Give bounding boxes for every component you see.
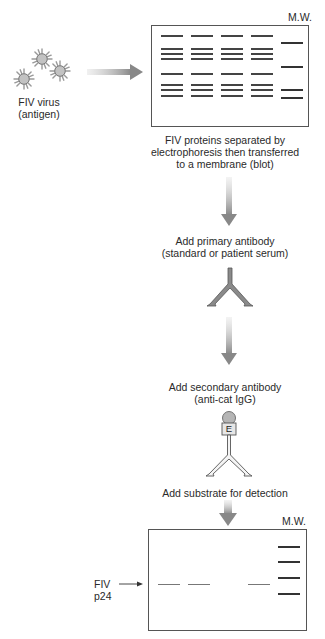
sample-band: [161, 89, 183, 91]
sample-band: [251, 48, 273, 50]
bottom-blot-membrane: [148, 529, 307, 631]
sample-band: [251, 89, 273, 91]
primary-antibody-line2: (standard or patient serum): [130, 247, 320, 259]
mw-marker-band: [281, 89, 303, 91]
mw-marker-band: [278, 577, 300, 579]
substrate-label: Add substrate for detection: [130, 487, 320, 499]
sample-band: [221, 89, 243, 91]
top-blot-membrane: [151, 25, 309, 127]
enzyme-linked-antibody-icon: [202, 411, 258, 479]
sample-band: [161, 58, 183, 60]
sample-band: [191, 95, 213, 97]
sample-band: [161, 73, 183, 75]
y-antibody-icon: [204, 268, 256, 312]
sample-band: [191, 84, 213, 86]
sample-band: [221, 58, 243, 60]
sample-band: [221, 95, 243, 97]
sample-band: [161, 95, 183, 97]
mw-marker-band: [281, 66, 303, 68]
sample-band: [251, 73, 273, 75]
bottom-mw-label: M.W.: [276, 515, 306, 527]
sample-band: [161, 35, 183, 37]
top-blot-caption-line3: to a membrane (blot): [130, 158, 320, 170]
mw-marker-band: [281, 97, 303, 99]
arrow-right-icon: [87, 64, 143, 80]
arrow-down-icon: [221, 177, 237, 226]
arrow-down-icon: [221, 317, 237, 365]
virus-particles-icon: [10, 44, 80, 99]
sample-band: [251, 58, 273, 60]
sample-band: [221, 84, 243, 86]
enzyme-label: E: [222, 423, 236, 435]
sample-band: [251, 95, 273, 97]
sample-band: [251, 53, 273, 55]
sample-band: [191, 48, 213, 50]
p24-band: [248, 584, 270, 585]
sample-band: [251, 35, 273, 37]
sample-band: [191, 53, 213, 55]
primary-antibody-line1: Add primary antibody: [130, 235, 320, 247]
sample-band: [221, 48, 243, 50]
top-blot-caption-line2: electrophoresis then transferred: [130, 146, 320, 158]
sample-band: [161, 84, 183, 86]
top-mw-label: M.W.: [282, 11, 312, 23]
arrow-down-icon: [219, 500, 237, 526]
mw-marker-band: [278, 561, 300, 563]
p24-label-line2: p24: [94, 590, 112, 602]
sample-band: [251, 84, 273, 86]
sample-band: [221, 73, 243, 75]
virus-label-line1: FIV virus: [12, 96, 66, 108]
p24-band: [158, 584, 180, 585]
p24-label-line1: FIV: [94, 578, 110, 590]
virus-label-line2: (antigen): [12, 108, 66, 120]
sample-band: [191, 89, 213, 91]
sample-band: [191, 73, 213, 75]
p24-pointer-arrow-icon: [119, 580, 143, 588]
mw-marker-band: [278, 546, 300, 548]
sample-band: [221, 35, 243, 37]
sample-band: [221, 53, 243, 55]
sample-band: [161, 53, 183, 55]
p24-band: [188, 584, 210, 585]
secondary-antibody-line2: (anti-cat IgG): [130, 393, 320, 405]
top-blot-caption-line1: FIV proteins separated by: [130, 134, 320, 146]
mw-marker-band: [278, 593, 300, 595]
sample-band: [191, 58, 213, 60]
mw-marker-band: [281, 42, 303, 44]
secondary-antibody-line1: Add secondary antibody: [130, 381, 320, 393]
sample-band: [191, 35, 213, 37]
sample-band: [161, 48, 183, 50]
